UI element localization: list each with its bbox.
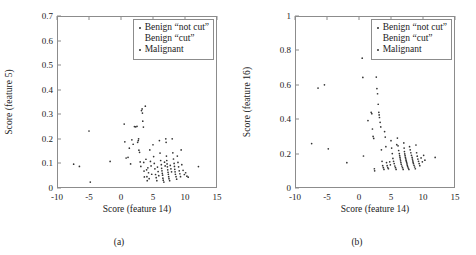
x-tick-mark	[217, 16, 218, 20]
y-tick-mark	[295, 84, 299, 85]
scatter-point	[184, 174, 186, 176]
x-tick-mark	[121, 16, 122, 20]
scatter-point	[420, 157, 422, 159]
scatter-point	[164, 165, 166, 167]
legend-dot-icon	[137, 22, 143, 33]
scatter-point	[376, 88, 378, 90]
scatter-point	[152, 144, 154, 146]
legend-dot-icon	[375, 22, 381, 33]
y-tick-label: 0.1	[42, 158, 53, 168]
scatter-point	[363, 155, 365, 157]
scatter-point	[418, 163, 420, 165]
legend-blank-marker-icon	[375, 33, 381, 44]
scatter-point	[404, 151, 406, 153]
scatter-point	[140, 166, 142, 168]
scatter-point	[148, 172, 150, 174]
scatter-point	[144, 105, 146, 107]
plot-area-b: Score (feature 16) Score (feature 14) Be…	[295, 16, 455, 188]
scatter-point	[162, 179, 164, 181]
scatter-point	[400, 163, 402, 165]
scatter-point	[167, 169, 169, 171]
x-tick-label: -5	[85, 192, 93, 202]
x-tick-label: 10	[181, 192, 190, 202]
scatter-point	[388, 168, 390, 170]
scatter-point	[384, 131, 386, 133]
scatter-point	[175, 176, 177, 178]
scatter-point	[170, 168, 172, 170]
scatter-point	[400, 160, 402, 162]
scatter-point	[146, 180, 148, 182]
scatter-point	[141, 110, 143, 112]
scatter-point	[324, 84, 326, 86]
scatter-point	[401, 165, 403, 167]
scatter-point	[139, 161, 141, 163]
scatter-point	[399, 157, 401, 159]
x-tick-mark	[391, 16, 392, 20]
scatter-point	[165, 138, 167, 140]
scatter-point	[416, 152, 418, 154]
scatter-point	[382, 165, 384, 167]
scatter-point	[380, 126, 382, 128]
scatter-point	[346, 162, 348, 164]
scatter-point	[367, 120, 369, 122]
scatter-point	[415, 144, 417, 146]
x-tick-mark	[423, 16, 424, 20]
scatter-point	[89, 181, 91, 183]
y-tick-label: 0.8	[280, 45, 291, 55]
scatter-point	[150, 161, 152, 163]
y-tick-mark	[57, 163, 61, 164]
scatter-point	[138, 138, 140, 140]
legend-label: Benign “not cut”	[145, 22, 209, 33]
scatter-point	[181, 164, 183, 166]
y-tick-mark	[57, 188, 61, 189]
y-tick-mark	[295, 153, 299, 154]
scatter-point	[390, 164, 392, 166]
y-tick-mark	[295, 16, 299, 17]
scatter-point	[160, 164, 162, 166]
x-tick-mark	[455, 16, 456, 20]
scatter-point	[418, 160, 420, 162]
legend-entry-benign-not-cut: Benign “not cut”	[375, 22, 447, 33]
scatter-point	[161, 172, 163, 174]
y-tick-label: 0.6	[42, 36, 53, 46]
scatter-point	[409, 146, 411, 148]
scatter-point	[148, 178, 150, 180]
scatter-point	[386, 165, 388, 167]
scatter-point	[178, 166, 180, 168]
x-tick-mark	[153, 16, 154, 20]
scatter-point	[434, 157, 436, 159]
scatter-point	[385, 146, 387, 148]
scatter-point	[177, 162, 179, 164]
x-tick-label: 0	[119, 192, 124, 202]
scatter-point	[159, 152, 161, 154]
scatter-point	[383, 169, 385, 171]
legend-label: Malignant	[383, 44, 422, 55]
scatter-point	[422, 161, 424, 163]
scatter-point	[398, 153, 400, 155]
y-tick-label: 0.5	[42, 60, 53, 70]
scatter-point	[171, 138, 173, 140]
scatter-point	[408, 169, 410, 171]
x-tick-mark	[295, 16, 296, 20]
scatter-point	[399, 158, 401, 160]
scatter-point	[377, 93, 379, 95]
scatter-point	[168, 176, 170, 178]
scatter-point	[109, 161, 111, 163]
scatter-point	[136, 125, 138, 127]
legend-dot-icon	[137, 44, 143, 55]
y-tick-mark	[57, 65, 61, 66]
x-axis-label-b: Score (feature 14)	[295, 204, 455, 214]
scatter-point	[379, 117, 381, 119]
panel-a: Score (feature 5) Score (feature 14) Ben…	[0, 0, 238, 255]
y-tick-label: 0.7	[42, 11, 53, 21]
legend-entry-malignant: Malignant	[375, 44, 447, 55]
scatter-point	[166, 160, 168, 162]
x-tick-label: -10	[289, 192, 301, 202]
scatter-point	[382, 167, 384, 169]
scatter-point	[169, 180, 171, 182]
scatter-point	[125, 157, 127, 159]
scatter-point	[178, 170, 180, 172]
scatter-point	[398, 150, 400, 152]
y-tick-mark	[295, 50, 299, 51]
scatter-point	[155, 174, 157, 176]
